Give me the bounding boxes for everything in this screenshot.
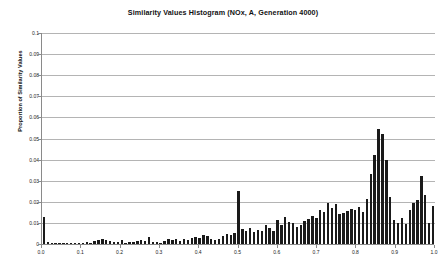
histogram-bar (121, 240, 123, 244)
histogram-bar (381, 134, 383, 244)
histogram-bar (296, 227, 298, 244)
x-tick-mark (41, 245, 42, 248)
y-tick-label: 0.02 (3, 199, 39, 205)
histogram-bar (303, 221, 305, 244)
histogram-bar (245, 231, 247, 244)
histogram-bar (265, 225, 267, 244)
chart-container: Similarity Values Histogram (NOx, A, Gen… (0, 0, 446, 274)
histogram-bar (268, 228, 270, 244)
histogram-bar (401, 218, 403, 244)
histogram-bar (420, 176, 422, 244)
x-tick-mark (395, 245, 396, 248)
histogram-bar (346, 211, 348, 244)
histogram-bar (167, 239, 169, 244)
y-tick-label: 0.01 (3, 220, 39, 226)
histogram-bar (292, 223, 294, 244)
x-tick-mark (198, 245, 199, 248)
histogram-bar (249, 228, 251, 244)
histogram-bar (78, 243, 80, 244)
histogram-bar (183, 239, 185, 244)
y-tick-label: 0.09 (3, 51, 39, 57)
histogram-bar (416, 200, 418, 244)
y-tick-label: 0.05 (3, 136, 39, 142)
histogram-bar (117, 242, 119, 244)
histogram-bar (70, 243, 72, 244)
histogram-bar (358, 207, 360, 244)
histogram-bar (226, 234, 228, 244)
x-tick-mark (355, 245, 356, 248)
histogram-bar (191, 238, 193, 244)
histogram-bar (179, 241, 181, 244)
x-tick-label: 0.4 (188, 249, 208, 255)
histogram-bar (338, 214, 340, 244)
histogram-bar (257, 230, 259, 244)
histogram-bar (214, 240, 216, 244)
histogram-bar (109, 241, 111, 244)
histogram-bar (276, 220, 278, 244)
histogram-bar (128, 242, 130, 244)
histogram-bar (43, 217, 45, 244)
histogram-bar (253, 232, 255, 244)
histogram-bar (393, 220, 395, 244)
y-tick-label: 0.06 (3, 114, 39, 120)
plot-area (41, 33, 434, 245)
histogram-bar (82, 243, 84, 244)
histogram-bar (405, 224, 407, 244)
histogram-bar (140, 240, 142, 244)
x-tick-mark (277, 245, 278, 248)
y-axis-ticks: 00.010.020.030.040.050.060.070.080.090.1 (0, 33, 39, 246)
histogram-bar (175, 239, 177, 244)
x-tick-label: 0.8 (345, 249, 365, 255)
histogram-bar (210, 239, 212, 244)
y-tick-label: 0.04 (3, 157, 39, 163)
y-tick-label: 0.07 (3, 93, 39, 99)
histogram-bar (412, 203, 414, 244)
x-tick-label: 0.1 (70, 249, 90, 255)
histogram-bar (144, 241, 146, 244)
histogram-bar (62, 243, 64, 244)
histogram-bar (206, 236, 208, 244)
histogram-bar (105, 240, 107, 244)
y-tick-label: 0.08 (3, 72, 39, 78)
histogram-bar (288, 222, 290, 244)
x-tick-mark (120, 245, 121, 248)
histogram-bar (222, 236, 224, 244)
histogram-bar (362, 212, 364, 244)
x-tick-mark (434, 245, 435, 248)
histogram-bar (74, 243, 76, 244)
histogram-bar (370, 174, 372, 244)
x-axis-ticks: 0.00.10.20.30.40.50.60.70.80.91.0 (41, 245, 434, 265)
histogram-bar (187, 240, 189, 244)
histogram-bar (93, 241, 95, 244)
histogram-bar (241, 229, 243, 244)
histogram-bar (397, 223, 399, 244)
histogram-bar (113, 242, 115, 244)
histogram-bar (218, 239, 220, 244)
x-tick-label: 0.9 (385, 249, 405, 255)
histogram-bar (198, 238, 200, 244)
histogram-bar (377, 129, 379, 244)
y-tick-label: 0.1 (3, 30, 39, 36)
histogram-bar (272, 231, 274, 244)
histogram-bar (159, 243, 161, 244)
histogram-bar (152, 242, 154, 244)
histogram-bar (311, 216, 313, 244)
x-tick-label: 0.2 (110, 249, 130, 255)
x-tick-label: 0.6 (267, 249, 287, 255)
histogram-bar (373, 155, 375, 244)
histogram-bar (389, 197, 391, 244)
histogram-bar (124, 243, 126, 244)
histogram-bar (89, 243, 91, 244)
histogram-bar (58, 243, 60, 244)
histogram-bar (280, 225, 282, 244)
histogram-bar (319, 210, 321, 244)
histogram-bar (163, 241, 165, 244)
histogram-bar (335, 204, 337, 245)
histogram-bar (261, 231, 263, 244)
histogram-bar (342, 213, 344, 244)
chart-title: Similarity Values Histogram (NOx, A, Gen… (0, 8, 446, 17)
histogram-bar (194, 237, 196, 244)
histogram-bar (409, 210, 411, 244)
histogram-bar (51, 243, 53, 244)
x-tick-label: 0.3 (149, 249, 169, 255)
